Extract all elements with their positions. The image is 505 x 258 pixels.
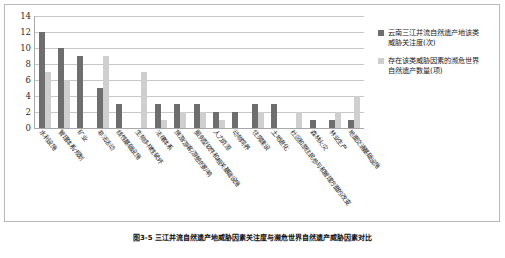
bar-series-0[interactable] bbox=[271, 104, 277, 128]
x-axis-labels: 水利设施管理体系/规划矿业非法活动线性基础设施生物多样性破坏法律体系旅游/游客/… bbox=[35, 129, 364, 217]
y-tick-label: 4 bbox=[26, 92, 31, 101]
bar-group bbox=[248, 16, 267, 128]
y-tick-label: 12 bbox=[20, 28, 31, 37]
bar-series-0[interactable] bbox=[232, 112, 238, 128]
bar-series-0[interactable] bbox=[77, 56, 83, 128]
legend-item[interactable]: 云南三江并流自然遗产地该类威胁关注度(次) bbox=[378, 28, 490, 49]
figure-caption: 图3-5 三江并流自然遗产地威胁因素关注度与濒危世界自然遗产威胁因素对比 bbox=[0, 232, 505, 242]
bar-group bbox=[190, 16, 209, 128]
x-axis-tick-label: 动物饲养 bbox=[231, 129, 251, 151]
bar-series-container bbox=[35, 16, 364, 128]
bar-series-1[interactable] bbox=[161, 120, 167, 128]
plot-area: 02468101214 bbox=[34, 16, 364, 128]
y-tick-label: 6 bbox=[26, 76, 31, 85]
x-axis-tick-label: 法律体系 bbox=[153, 129, 173, 151]
bar-series-1[interactable] bbox=[354, 96, 360, 128]
x-axis-tick-label: 住房建设 bbox=[250, 129, 270, 151]
bar-series-1[interactable] bbox=[45, 72, 51, 128]
bar-series-0[interactable] bbox=[116, 104, 122, 128]
y-tick-label: 0 bbox=[26, 124, 31, 133]
y-tick-label: 10 bbox=[20, 44, 31, 53]
y-tick-label: 2 bbox=[26, 108, 31, 117]
bar-series-1[interactable] bbox=[200, 112, 206, 128]
x-axis-tick-label: 非法活动 bbox=[95, 129, 115, 151]
bar-group bbox=[171, 16, 190, 128]
y-tick-label: 14 bbox=[20, 12, 31, 21]
figure-container: 02468101214 水利设施管理体系/规划矿业非法活动线性基础设施生物多样性… bbox=[0, 0, 505, 258]
legend-swatch-series-0 bbox=[378, 30, 384, 36]
bar-series-1[interactable] bbox=[258, 112, 264, 128]
legend-swatch-series-1 bbox=[378, 58, 384, 64]
legend-label-series-1: 存在该类威胁因素的濒危世界自然遗产数量(项) bbox=[388, 56, 484, 77]
legend-label-series-0: 云南三江并流自然遗产地该类威胁关注度(次) bbox=[388, 28, 484, 49]
bar-group bbox=[267, 16, 286, 128]
legend-item[interactable]: 存在该类威胁因素的濒危世界自然遗产数量(项) bbox=[378, 56, 490, 77]
bar-group bbox=[93, 16, 112, 128]
y-tick-label: 8 bbox=[26, 60, 31, 69]
x-axis-tick-label: 土地退化 bbox=[270, 129, 290, 151]
bar-series-1[interactable] bbox=[141, 72, 147, 128]
bar-group bbox=[112, 16, 131, 128]
bar-group bbox=[74, 16, 93, 128]
bar-series-0[interactable] bbox=[310, 120, 316, 128]
bar-group bbox=[151, 16, 170, 128]
bar-group bbox=[54, 16, 73, 128]
bar-series-1[interactable] bbox=[103, 56, 109, 128]
bar-group bbox=[325, 16, 344, 128]
bar-group bbox=[132, 16, 151, 128]
bar-series-1[interactable] bbox=[64, 80, 70, 128]
bar-group bbox=[306, 16, 325, 128]
bar-series-1[interactable] bbox=[219, 120, 225, 128]
bar-group bbox=[229, 16, 248, 128]
bar-series-1[interactable] bbox=[335, 112, 341, 128]
x-axis-tick-label: 矿业 bbox=[76, 129, 88, 142]
chart-legend: 云南三江并流自然遗产地该类威胁关注度(次) 存在该类威胁因素的濒危世界自然遗产数… bbox=[378, 28, 490, 84]
bar-group bbox=[345, 16, 364, 128]
x-axis-tick-label: 森林火灾 bbox=[308, 129, 328, 151]
x-axis-tick-label: 水利设施 bbox=[37, 129, 57, 151]
bar-group bbox=[287, 16, 306, 128]
x-axis-tick-label: 林业生产 bbox=[328, 129, 348, 151]
bar-group bbox=[35, 16, 54, 128]
bar-group bbox=[209, 16, 228, 128]
x-axis-tick-label: 旅游/游客/游憩的影响 bbox=[173, 129, 213, 177]
bar-series-1[interactable] bbox=[180, 112, 186, 128]
bar-series-1[interactable] bbox=[296, 112, 302, 128]
